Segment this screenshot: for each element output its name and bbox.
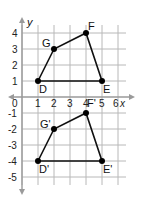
label-F-prime: F'	[87, 97, 96, 109]
label-G: G	[42, 37, 51, 49]
label-F: F	[88, 20, 95, 32]
svg-text:3: 3	[67, 98, 73, 109]
svg-text:-4: -4	[8, 156, 17, 167]
point-G-prime	[51, 126, 57, 132]
x-axis-right-arrow-icon	[129, 94, 135, 100]
svg-text:5: 5	[99, 98, 105, 109]
label-E-prime: E'	[103, 163, 112, 175]
svg-text:-2: -2	[8, 124, 17, 135]
point-F-prime	[83, 110, 89, 116]
svg-text:1: 1	[12, 76, 18, 87]
svg-text:1: 1	[35, 98, 41, 109]
x-tick-labels: 0 1 2 3 4 5 6 x	[12, 98, 126, 109]
svg-text:3: 3	[12, 44, 18, 55]
label-D: D	[39, 83, 47, 95]
svg-text:2: 2	[12, 60, 18, 71]
label-D-prime: D'	[39, 163, 49, 175]
svg-text:-1: -1	[8, 108, 17, 119]
label-E: E	[103, 83, 110, 95]
svg-text:4: 4	[12, 28, 18, 39]
y-axis-up-arrow-icon	[19, 17, 25, 23]
label-G-prime: G'	[40, 118, 51, 130]
svg-text:-5: -5	[8, 172, 17, 183]
svg-text:6: 6	[113, 98, 119, 109]
point-G	[51, 46, 57, 52]
svg-text:2: 2	[51, 98, 57, 109]
y-axis-down-arrow-icon	[19, 189, 25, 195]
y-axis-label: y	[26, 16, 34, 28]
coordinate-plane: y 0 1 2 3 4 5 6 x 1 2 3 4 -1 -2 -3 -4 -5…	[0, 0, 143, 209]
quadrilateral-DGFE: D G F E	[35, 20, 110, 95]
x-axis-label: x	[119, 98, 126, 109]
svg-text:-3: -3	[8, 140, 17, 151]
